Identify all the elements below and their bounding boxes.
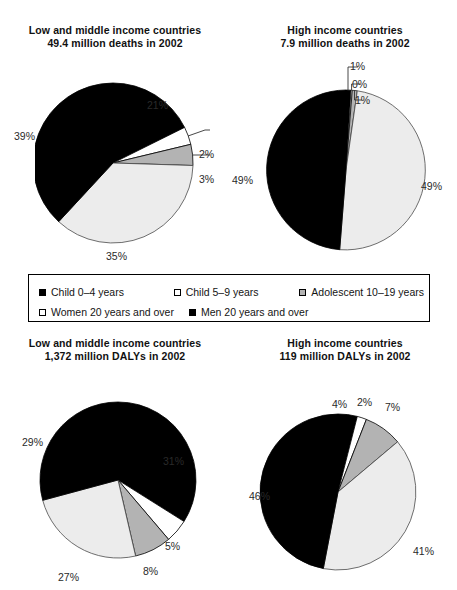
legend-item-adolescent10_19[interactable]: Adolescent 10–19 years: [299, 286, 424, 298]
legend-item-child0_4[interactable]: Child 0–4 years: [39, 286, 174, 298]
pie-4-slice-men20plus: [260, 414, 338, 569]
legend-item-men20plus[interactable]: Men 20 years and over: [189, 306, 308, 318]
chart-title-4-line1: High income countries: [287, 337, 402, 349]
pie-1-label-men20plus: 39%: [14, 130, 35, 142]
pie-4-label-women20plus: 41%: [413, 545, 434, 557]
chart-title-3-line1: Low and middle income countries: [29, 337, 201, 349]
pie-chart-1[interactable]: [35, 68, 210, 258]
legend-row-1: Child 0–4 years Child 5–9 years Adolesce…: [39, 285, 424, 299]
legend-swatch-white-icon: [39, 309, 46, 316]
chart-title-3-line2: 1,372 million DALYs in 2002: [10, 350, 220, 363]
legend-label-child0_4: Child 0–4 years: [51, 286, 124, 298]
pie-2-slice-men20plus: [267, 90, 346, 250]
pie-3-label-men20plus: 29%: [22, 436, 43, 448]
chart-title-4-line2: 119 million DALYs in 2002: [255, 350, 435, 363]
legend-swatch-grey-icon: [299, 289, 306, 296]
legend-swatch-white-icon: [174, 289, 181, 296]
pie-3-label-child5_9: 5%: [165, 540, 180, 552]
pie-1-label-adolescent10_19: 3%: [199, 173, 214, 185]
chart-title-3: Low and middle income countries 1,372 mi…: [10, 337, 220, 363]
pie-2-label-women20plus: 49%: [421, 180, 442, 192]
pie-2-label-child5_9: 0%: [352, 78, 367, 90]
pie-4-label-child5_9: 2%: [357, 396, 372, 408]
legend-swatch-black-icon: [189, 309, 196, 316]
pie-1-label-child0_4: 21%: [147, 99, 168, 111]
pie-chart-3[interactable]: [35, 395, 215, 575]
pie-3-label-women20plus: 27%: [58, 571, 79, 583]
pie-1-leader-child5_9: [188, 130, 210, 136]
pie-1-label-women20plus: 35%: [106, 250, 127, 262]
chart-title-2-line1: High income countries: [287, 24, 402, 36]
pie-4-label-men20plus: 46%: [249, 490, 270, 502]
pie-2-label-child0_4: 1%: [350, 60, 365, 72]
pie-chart-3-svg: [35, 395, 215, 575]
legend-label-women20plus: Women 20 years and over: [51, 306, 174, 318]
pie-3-label-child0_4: 31%: [163, 455, 184, 467]
pie-1-label-child5_9: 2%: [199, 148, 214, 160]
legend-item-women20plus[interactable]: Women 20 years and over: [39, 306, 189, 318]
pie-2-label-men20plus: 49%: [232, 174, 253, 186]
legend-label-child5_9: Child 5–9 years: [186, 286, 259, 298]
chart-title-4: High income countries 119 million DALYs …: [255, 337, 435, 363]
pie-chart-1-svg: [35, 68, 210, 258]
legend-label-men20plus: Men 20 years and over: [201, 306, 308, 318]
legend-label-adolescent10_19: Adolescent 10–19 years: [311, 286, 424, 298]
chart-title-1-line1: Low and middle income countries: [29, 24, 201, 36]
chart-title-1: Low and middle income countries 49.4 mil…: [10, 24, 220, 50]
pie-chart-2-svg: [258, 60, 443, 260]
chart-title-2: High income countries 7.9 million deaths…: [255, 24, 435, 50]
legend: Child 0–4 years Child 5–9 years Adolesce…: [28, 274, 430, 322]
pie-chart-4-svg: [255, 408, 435, 586]
pie-3-label-adolescent10_19: 8%: [143, 565, 158, 577]
pie-chart-2[interactable]: [258, 60, 443, 260]
chart-title-1-line2: 49.4 million deaths in 2002: [10, 37, 220, 50]
pie-2-label-adolescent10_19: 1%: [355, 94, 370, 106]
pie-4-label-child0_4: 4%: [332, 398, 347, 410]
legend-row-2: Women 20 years and over Men 20 years and…: [39, 305, 424, 319]
legend-swatch-black-icon: [39, 289, 46, 296]
chart-title-2-line2: 7.9 million deaths in 2002: [255, 37, 435, 50]
legend-item-child5_9[interactable]: Child 5–9 years: [174, 286, 300, 298]
pie-4-label-adolescent10_19: 7%: [385, 401, 400, 413]
pie-chart-4[interactable]: [255, 408, 435, 586]
